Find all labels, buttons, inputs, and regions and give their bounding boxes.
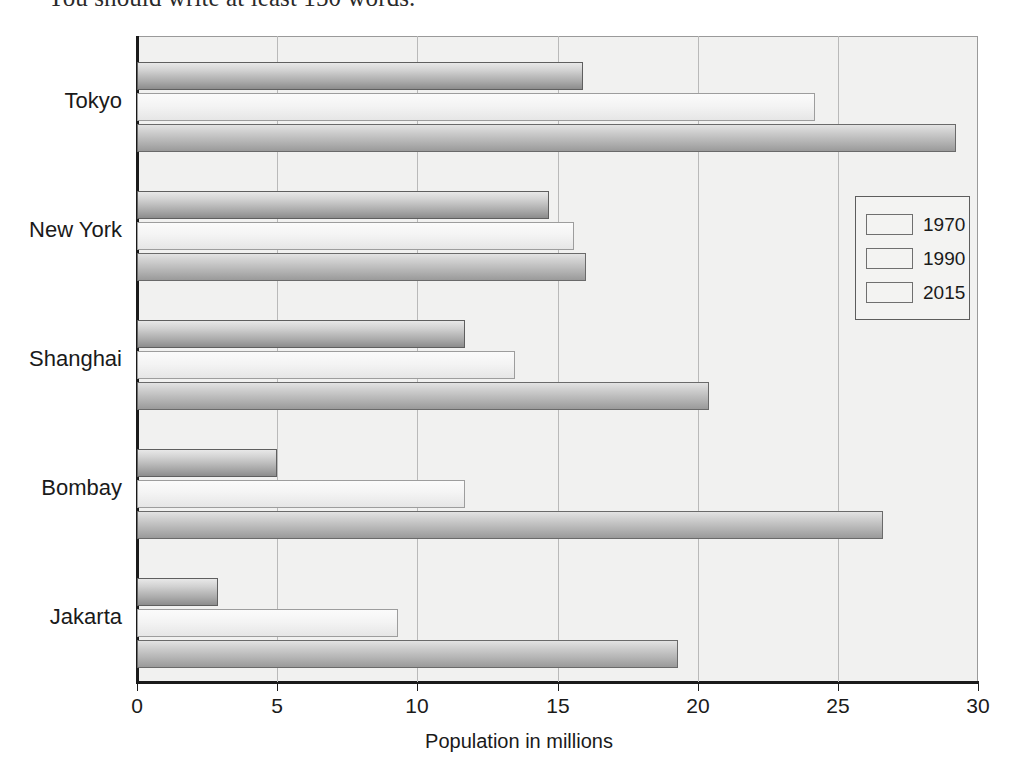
bar-jakarta-1970 [137, 578, 218, 606]
category-label-tokyo: Tokyo [0, 88, 122, 114]
bar-shanghai-1990 [137, 351, 515, 379]
legend-label-2015: 2015 [923, 283, 965, 302]
bar-jakarta-2015 [137, 640, 678, 668]
x-tick [698, 682, 699, 691]
bar-chart-figure: 051015202530 TokyoNew YorkShanghaiBombay… [0, 0, 1010, 781]
bar-bombay-2015 [137, 511, 883, 539]
bar-tokyo-2015 [137, 124, 956, 152]
legend-item: 2015 [866, 275, 969, 309]
bar-shanghai-1970 [137, 320, 465, 348]
x-tick-label: 15 [546, 694, 569, 718]
x-tick-label: 30 [966, 694, 989, 718]
x-tick [558, 682, 559, 691]
x-tick-label: 5 [271, 694, 283, 718]
x-tick-label: 0 [131, 694, 143, 718]
category-label-shanghai: Shanghai [0, 346, 122, 372]
bar-new-york-1970 [137, 191, 549, 219]
legend-swatch-2015 [866, 282, 913, 303]
legend-swatch-1990 [866, 248, 913, 269]
x-axis-label-text: Population in millions [425, 730, 613, 752]
x-tick [277, 682, 278, 691]
legend-label-1990: 1990 [923, 249, 965, 268]
legend-item: 1970 [866, 207, 969, 241]
x-tick-label: 25 [826, 694, 849, 718]
x-axis-label: Population in millions [0, 730, 1010, 753]
x-tick [978, 682, 979, 691]
bar-tokyo-1970 [137, 62, 583, 90]
category-label-new-york: New York [0, 217, 122, 243]
bar-jakarta-1990 [137, 609, 398, 637]
x-tick [137, 682, 138, 691]
bar-new-york-1990 [137, 222, 574, 250]
legend-swatch-1970 [866, 214, 913, 235]
x-tick [417, 682, 418, 691]
legend-label-1970: 1970 [923, 215, 965, 234]
legend-item: 1990 [866, 241, 969, 275]
bar-shanghai-2015 [137, 382, 709, 410]
bar-tokyo-1990 [137, 93, 815, 121]
x-tick-label: 10 [405, 694, 428, 718]
bar-bombay-1970 [137, 449, 277, 477]
bar-new-york-2015 [137, 253, 586, 281]
category-label-jakarta: Jakarta [0, 604, 122, 630]
x-tick-label: 20 [686, 694, 709, 718]
category-label-bombay: Bombay [0, 475, 122, 501]
bar-bombay-1990 [137, 480, 465, 508]
legend: 1970 1990 2015 [855, 196, 970, 320]
x-tick [838, 682, 839, 691]
